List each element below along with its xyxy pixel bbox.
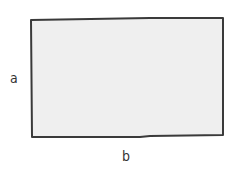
side-label-a: a: [10, 70, 18, 86]
rectangle-diagram: a b: [0, 0, 234, 175]
rectangle-shape: [0, 0, 234, 175]
side-label-b: b: [122, 148, 130, 164]
